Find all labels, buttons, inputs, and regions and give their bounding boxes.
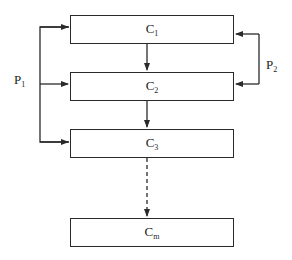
p2-label: P2 <box>266 57 277 74</box>
box-c1: C1 <box>70 15 234 44</box>
flow-diagram: C1 C2 C3 Cm P1 P2 <box>0 0 292 260</box>
box-c3-label: C3 <box>71 134 233 151</box>
box-c2-label: C2 <box>71 77 233 94</box>
box-c3: C3 <box>70 129 234 158</box>
box-cm-label: Cm <box>71 223 233 240</box>
p1-label: P1 <box>14 72 25 89</box>
box-c2: C2 <box>70 72 234 101</box>
box-cm: Cm <box>70 218 234 247</box>
box-c1-label: C1 <box>71 20 233 37</box>
